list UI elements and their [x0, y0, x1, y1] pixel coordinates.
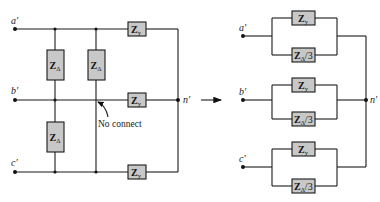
phase-b-line: b′ — [11, 85, 178, 102]
no-connect-label: No connect — [98, 119, 142, 129]
node-c-terminal — [13, 170, 17, 174]
phase-a-parallel: a′ Zy ZΔ/3 — [239, 11, 366, 62]
right-circuit: n′ a′ Zy ZΔ/3 b′ — [239, 11, 378, 193]
phase-c-line: c′ — [11, 157, 178, 174]
impedance-wye-a: Zy — [292, 11, 315, 25]
impedance-wye-b: Zy — [292, 78, 315, 92]
node-n-label: n′ — [370, 94, 378, 105]
impedance-wye-c: Zy — [292, 142, 315, 156]
node-a-label: a′ — [239, 22, 247, 33]
node-b-label: b′ — [11, 85, 19, 96]
phase-c-parallel: c′ Zy ZΔ/3 — [239, 142, 366, 193]
phase-a-line: a′ — [11, 15, 178, 31]
node-a-label: a′ — [11, 15, 19, 26]
node-c-label: c′ — [239, 153, 246, 164]
impedance-delta-third-c: ZΔ/3 — [292, 179, 315, 193]
impedance-wye-a: Zy — [128, 22, 146, 36]
impedance-delta-third-b: ZΔ/3 — [292, 112, 315, 126]
node-n-label: n′ — [183, 94, 191, 105]
node-c-label: c′ — [11, 157, 18, 168]
node-a-terminal — [13, 27, 17, 31]
impedance-delta-third-a: ZΔ/3 — [292, 48, 315, 62]
node-b-terminal — [13, 98, 17, 102]
left-circuit: a′ b′ c′ n′ ZΔ — [11, 15, 191, 179]
impedance-delta-ca: ZΔ — [88, 50, 105, 80]
impedance-delta-ab: ZΔ — [47, 50, 64, 80]
node-n-terminal — [176, 98, 180, 102]
circuit-diagram: a′ b′ c′ n′ ZΔ — [0, 0, 380, 202]
impedance-wye-b: Zy — [128, 93, 146, 107]
node-b-label: b′ — [239, 86, 247, 97]
no-connect-arrow-icon — [98, 102, 108, 117]
phase-b-parallel: b′ Zy ZΔ/3 — [239, 78, 366, 126]
impedance-delta-bc: ZΔ — [47, 122, 64, 152]
impedance-wye-c: Zy — [128, 165, 146, 179]
